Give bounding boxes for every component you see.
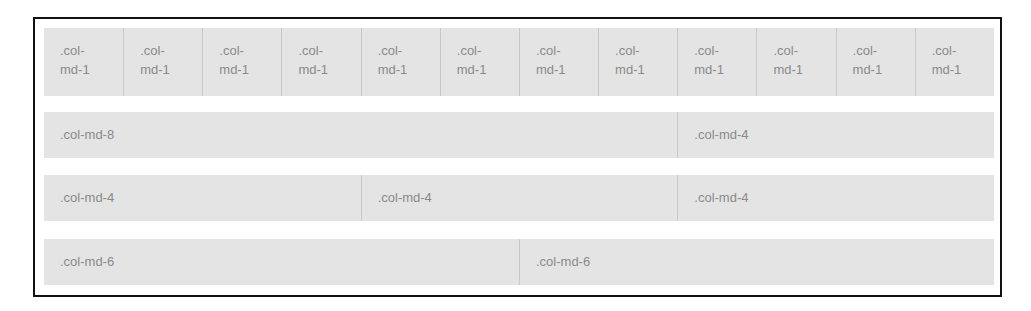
grid-cell: .col-md-1 bbox=[836, 28, 915, 96]
grid-cell: .col-md-6 bbox=[44, 239, 519, 285]
cell-label: .col-md-1 bbox=[932, 41, 972, 79]
grid-cell: .col-md-4 bbox=[677, 175, 994, 221]
grid-cell: .col-md-1 bbox=[202, 28, 281, 96]
grid-cell: .col-md-1 bbox=[915, 28, 994, 96]
grid-demo-frame: .col-md-1 .col-md-1 .col-md-1 .col-md-1 … bbox=[33, 17, 1002, 297]
grid-cell: .col-md-1 bbox=[756, 28, 835, 96]
cell-label: .col-md-1 bbox=[457, 41, 497, 79]
grid-row-col-md-6-6: .col-md-6 .col-md-6 bbox=[44, 239, 994, 285]
grid-cell: .col-md-8 bbox=[44, 112, 677, 158]
grid-cell: .col-md-1 bbox=[123, 28, 202, 96]
grid-cell: .col-md-1 bbox=[440, 28, 519, 96]
grid-cell: .col-md-4 bbox=[677, 112, 994, 158]
grid-cell: .col-md-4 bbox=[44, 175, 361, 221]
grid-cell: .col-md-1 bbox=[361, 28, 440, 96]
grid-row-col-md-4-4-4: .col-md-4 .col-md-4 .col-md-4 bbox=[44, 175, 994, 221]
grid-row-col-md-8-4: .col-md-8 .col-md-4 bbox=[44, 112, 994, 158]
cell-label: .col-md-1 bbox=[378, 41, 418, 79]
bootstrap-grid: .col-md-1 .col-md-1 .col-md-1 .col-md-1 … bbox=[44, 28, 994, 285]
grid-cell: .col-md-1 bbox=[598, 28, 677, 96]
cell-label: .col-md-1 bbox=[694, 41, 734, 79]
cell-label: .col-md-1 bbox=[773, 41, 813, 79]
cell-label: .col-md-6 bbox=[536, 254, 590, 269]
cell-label: .col-md-4 bbox=[694, 190, 748, 205]
cell-label: .col-md-4 bbox=[694, 127, 748, 142]
cell-label: .col-md-6 bbox=[60, 254, 114, 269]
cell-label: .col-md-1 bbox=[219, 41, 259, 79]
cell-label: .col-md-4 bbox=[378, 190, 432, 205]
grid-cell: .col-md-1 bbox=[44, 28, 123, 96]
cell-label: .col-md-1 bbox=[298, 41, 338, 79]
grid-cell: .col-md-1 bbox=[281, 28, 360, 96]
grid-cell: .col-md-1 bbox=[519, 28, 598, 96]
cell-label: .col-md-1 bbox=[140, 41, 180, 79]
cell-label: .col-md-4 bbox=[60, 190, 114, 205]
cell-label: .col-md-1 bbox=[615, 41, 655, 79]
grid-cell: .col-md-4 bbox=[361, 175, 678, 221]
cell-label: .col-md-1 bbox=[853, 41, 893, 79]
grid-cell: .col-md-6 bbox=[519, 239, 994, 285]
grid-cell: .col-md-1 bbox=[677, 28, 756, 96]
cell-label: .col-md-8 bbox=[60, 127, 114, 142]
cell-label: .col-md-1 bbox=[60, 41, 100, 79]
cell-label: .col-md-1 bbox=[536, 41, 576, 79]
grid-row-col-md-1: .col-md-1 .col-md-1 .col-md-1 .col-md-1 … bbox=[44, 28, 994, 96]
